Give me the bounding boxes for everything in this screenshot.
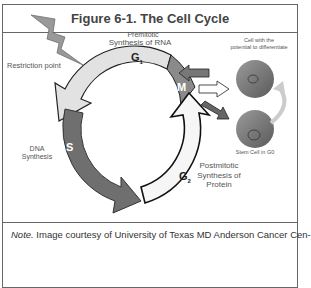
differentiating-cell — [236, 60, 274, 98]
restriction-point-label: Restriction point — [7, 61, 67, 70]
s-description: DNA Synthesis — [17, 145, 57, 162]
note-text: Image courtesy of University of Texas MD… — [34, 229, 311, 240]
svg-text:M: M — [177, 81, 186, 93]
s-phase-arc — [63, 109, 141, 213]
figure-frame: Figure 6-1. The Cell Cycle G1 M S G2 — [2, 4, 298, 288]
arrow-to-cell-icon — [199, 81, 229, 97]
figure-note: Note. Image courtesy of University of Te… — [3, 222, 297, 282]
note-prefix: Note. — [11, 229, 34, 240]
stem-cell-label: Stem Cell in G0 — [225, 149, 285, 156]
svg-text:S: S — [66, 141, 73, 153]
stem-cell — [236, 110, 274, 148]
g1-description: Synthesis of RNA — [95, 38, 185, 48]
g2-description: Postmitotic Synthesis of Protein — [189, 161, 249, 190]
lightning-bolt-icon — [31, 15, 83, 65]
return-arrow-icon — [271, 87, 284, 123]
cell-differentiate-label: Cell with the potential to differentiate — [225, 37, 293, 50]
